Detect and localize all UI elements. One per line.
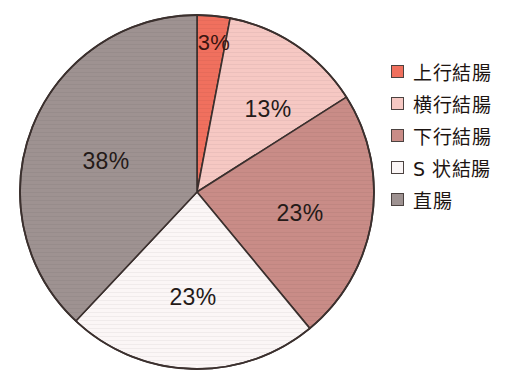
legend-item[interactable]: 横行結腸 (391, 88, 516, 118)
legend-item-label: 下行結腸 (413, 122, 491, 149)
legend-item-label: 上行結腸 (413, 58, 491, 85)
legend-swatch-icon (391, 193, 404, 206)
legend-swatch-icon (391, 65, 404, 78)
legend-item[interactable]: S 状結腸 (391, 152, 516, 182)
legend-swatch-icon (391, 161, 404, 174)
legend-item-label: S 状結腸 (413, 154, 491, 181)
legend-item-label: 直腸 (413, 186, 452, 213)
legend-item[interactable]: 上行結腸 (391, 56, 516, 86)
legend-swatch-icon (391, 129, 404, 142)
pie-slice-label: 23% (277, 200, 324, 227)
legend-item-label: 横行結腸 (413, 90, 491, 117)
legend-item[interactable]: 直腸 (391, 184, 516, 214)
legend-swatch-icon (391, 97, 404, 110)
legend-item[interactable]: 下行結腸 (391, 120, 516, 150)
pie-slice-label: 23% (170, 284, 217, 311)
legend: 上行結腸横行結腸下行結腸S 状結腸直腸 (391, 56, 516, 216)
pie-chart-figure: 3%13%23%23%38% 上行結腸横行結腸下行結腸S 状結腸直腸 (0, 0, 516, 382)
pie-chart-svg (0, 0, 390, 382)
pie-chart-plot-area: 3%13%23%23%38% (0, 0, 390, 382)
pie-slice-label: 3% (198, 30, 230, 56)
pie-slice-label: 13% (245, 96, 292, 123)
pie-slice-label: 38% (83, 148, 130, 175)
